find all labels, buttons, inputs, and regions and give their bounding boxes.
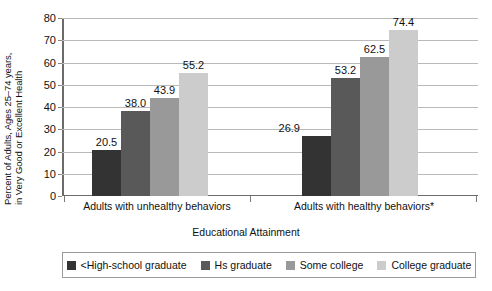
y-tick-mark — [58, 107, 62, 108]
bar-value-label: 38.0 — [125, 97, 146, 109]
y-tick-label: 80 — [44, 12, 56, 24]
bar — [302, 136, 331, 196]
bar — [121, 111, 150, 196]
legend-label: Hs graduate — [215, 259, 272, 271]
bar-value-label: 26.9 — [279, 122, 300, 134]
y-tick-mark — [58, 85, 62, 86]
y-tick-mark — [58, 152, 62, 153]
y-tick-label: 30 — [44, 123, 56, 135]
plot-area: 0102030405060708020.538.043.955.226.953.… — [62, 18, 478, 196]
y-axis-title-line-1: Percent of Adults, Ages 25–74 years, — [2, 53, 13, 205]
legend-item[interactable]: College graduate — [377, 259, 471, 271]
y-tick-label: 50 — [44, 79, 56, 91]
legend-label: College graduate — [391, 259, 471, 271]
legend-swatch-icon — [286, 261, 295, 270]
y-axis-title-line-2: in Very Good or Excellent Health — [13, 71, 24, 205]
legend-label: <High-school graduate — [81, 259, 187, 271]
bar — [389, 30, 418, 196]
y-tick-mark — [58, 196, 62, 197]
legend-swatch-icon — [201, 261, 210, 270]
bar-chart: Percent of Adults, Ages 25–74 years, in … — [0, 0, 492, 291]
y-tick-mark — [58, 18, 62, 19]
x-axis-title: Educational Attainment — [0, 226, 492, 238]
bar-value-label: 20.5 — [96, 136, 117, 148]
y-axis-title: Percent of Adults, Ages 25–74 years, in … — [0, 0, 40, 205]
chart-legend: <High-school graduateHs graduateSome col… — [62, 252, 476, 278]
y-tick-mark — [58, 63, 62, 64]
y-tick-label: 60 — [44, 57, 56, 69]
category-label: Adults with healthy behaviors* — [294, 200, 434, 212]
y-tick-label: 20 — [44, 146, 56, 158]
bar-value-label: 74.4 — [393, 16, 414, 28]
bar-value-label: 55.2 — [183, 59, 204, 71]
y-tick-label: 40 — [44, 101, 56, 113]
legend-item[interactable]: <High-school graduate — [67, 259, 187, 271]
gridline — [62, 18, 478, 19]
bar-value-label: 53.2 — [335, 64, 356, 76]
y-tick-label: 70 — [44, 34, 56, 46]
legend-item[interactable]: Some college — [286, 259, 364, 271]
bar-value-label: 62.5 — [364, 43, 385, 55]
bar — [92, 150, 121, 196]
legend-swatch-icon — [377, 261, 386, 270]
bar — [331, 78, 360, 196]
y-tick-mark — [58, 40, 62, 41]
bar — [360, 57, 389, 196]
y-tick-mark — [58, 129, 62, 130]
category-tick — [64, 196, 65, 202]
bar — [179, 73, 208, 196]
category-tick — [250, 196, 251, 202]
legend-swatch-icon — [67, 261, 76, 270]
category-label: Adults with unhealthy behaviors — [83, 200, 231, 212]
category-tick — [476, 196, 477, 202]
bar-value-label: 43.9 — [154, 84, 175, 96]
y-tick-label: 0 — [50, 190, 56, 202]
bar — [150, 98, 179, 196]
y-tick-mark — [58, 174, 62, 175]
y-tick-label: 10 — [44, 168, 56, 180]
legend-label: Some college — [300, 259, 364, 271]
legend-item[interactable]: Hs graduate — [201, 259, 272, 271]
